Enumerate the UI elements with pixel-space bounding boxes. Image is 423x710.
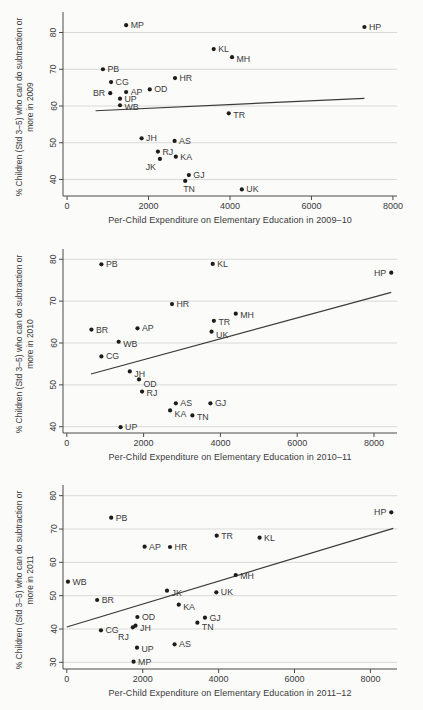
point-label-UK: UK	[216, 330, 228, 340]
x-tick-label-6000: 6000	[287, 438, 307, 448]
x-tick-label-0: 0	[64, 438, 69, 448]
data-point-PB	[99, 262, 103, 266]
x-tick-label-0: 0	[64, 674, 69, 684]
point-label-HR: HR	[175, 542, 188, 552]
data-point-PB	[109, 516, 113, 520]
point-label-BR: BR	[102, 595, 114, 605]
x-tick-label-6000: 6000	[301, 201, 321, 211]
data-point-MH	[234, 573, 238, 577]
data-point-WB	[66, 580, 70, 584]
point-label-OD: OD	[154, 84, 167, 94]
point-label-JK: JK	[171, 588, 181, 598]
y-tick-label-60: 60	[49, 557, 59, 567]
point-label-TR: TR	[221, 531, 233, 541]
point-label-KA: KA	[183, 602, 195, 612]
data-point-KL	[212, 47, 216, 51]
y-tick-label-80: 80	[49, 254, 59, 264]
y-axis-label-2009: % Children (Std 3–5) who can do subtract…	[14, 9, 38, 205]
data-point-WB	[118, 103, 122, 107]
point-label-HR: HR	[180, 73, 193, 83]
data-point-TN	[183, 179, 187, 183]
fit-line	[67, 528, 393, 627]
data-point-UK	[240, 187, 244, 191]
y-tick-label-40: 40	[49, 174, 59, 184]
data-point-TR	[215, 534, 219, 538]
data-point-RJ	[156, 149, 160, 153]
fit-line	[91, 292, 391, 374]
data-point-GJ	[203, 616, 207, 620]
point-label-AS: AS	[180, 398, 192, 408]
data-point-BR	[108, 91, 112, 95]
point-label-GJ: GJ	[193, 170, 204, 180]
point-label-TN: TN	[183, 184, 195, 194]
data-point-AS	[173, 139, 177, 143]
data-point-HR	[170, 302, 174, 306]
point-label-RJ: RJ	[147, 388, 158, 398]
point-label-UK: UK	[221, 587, 233, 597]
data-point-UP	[118, 97, 122, 101]
scatter-chart-2010-11: 405060708002000400060008000PBKLHPHRMHTRU…	[0, 237, 423, 473]
data-point-RJ	[131, 625, 135, 629]
point-label-HP: HP	[374, 268, 386, 278]
data-point-UK	[214, 590, 218, 594]
data-point-MH	[234, 312, 238, 316]
point-label-KA: KA	[180, 152, 192, 162]
y-tick-label-40: 40	[49, 422, 59, 432]
data-point-RJ	[140, 389, 144, 393]
data-point-KA	[177, 603, 181, 607]
data-point-HR	[168, 545, 172, 549]
data-point-AS	[174, 401, 178, 405]
x-tick-label-8000: 8000	[360, 674, 380, 684]
point-label-OD: OD	[142, 612, 155, 622]
data-point-TN	[195, 621, 199, 625]
scatter-chart-2011-12: 30405060708002000400060008000HPPBTRKLAPH…	[0, 473, 423, 710]
data-point-AP	[135, 326, 139, 330]
data-point-MP	[124, 23, 128, 27]
data-point-HP	[389, 510, 393, 514]
data-point-JK	[165, 589, 169, 593]
data-point-KL	[258, 536, 262, 540]
y-axis-label-2010: % Children (Std 3–5) who can do subtract…	[14, 246, 38, 442]
data-point-AS	[172, 642, 176, 646]
point-label-PB: PB	[107, 64, 119, 74]
point-label-WB: WB	[72, 577, 86, 587]
y-axis-label-2011: % Children (Std 3–5) who can do subtract…	[14, 482, 38, 678]
point-label-AP: AP	[142, 323, 154, 333]
point-label-UK: UK	[246, 184, 258, 194]
scatter-chart-2009-10: 405060708002000400060008000MPHPKLMHPBHRC…	[0, 0, 423, 237]
point-label-TR: TR	[233, 110, 245, 120]
y-tick-label-60: 60	[49, 338, 59, 348]
x-tick-label-4000: 4000	[220, 201, 240, 211]
data-point-AP	[143, 545, 147, 549]
data-point-JH	[128, 369, 132, 373]
data-point-KA	[174, 155, 178, 159]
data-point-HR	[173, 76, 177, 80]
point-label-JH: JH	[140, 623, 151, 633]
point-label-KA: KA	[175, 409, 187, 419]
y-tick-label-70: 70	[49, 296, 59, 306]
point-label-RJ: RJ	[162, 147, 173, 157]
x-tick-label-2000: 2000	[139, 201, 159, 211]
point-label-CG: CG	[116, 77, 129, 87]
point-label-GJ: GJ	[215, 398, 226, 408]
data-point-GJ	[208, 401, 212, 405]
x-tick-label-6000: 6000	[285, 674, 305, 684]
data-point-OD	[148, 87, 152, 91]
point-label-HR: HR	[177, 299, 190, 309]
data-point-MH	[230, 55, 234, 59]
x-tick-label-8000: 8000	[364, 438, 384, 448]
data-point-MP	[131, 660, 135, 664]
x-axis-label-2010-11: Per-Child Expenditure on Elementary Educ…	[63, 452, 397, 462]
point-label-PB: PB	[116, 513, 128, 523]
data-point-KL	[211, 262, 215, 266]
plot-area-2011-12: 30405060708002000400060008000HPPBTRKLAPH…	[0, 473, 423, 710]
y-tick-label-70: 70	[49, 524, 59, 534]
point-label-KL: KL	[218, 44, 229, 54]
point-label-JK: JK	[146, 162, 156, 172]
x-tick-label-2000: 2000	[134, 438, 154, 448]
point-label-MH: MH	[240, 571, 254, 581]
point-label-PB: PB	[106, 259, 118, 269]
data-point-PB	[101, 67, 105, 71]
data-point-CG	[109, 80, 113, 84]
y-tick-label-40: 40	[49, 624, 59, 634]
